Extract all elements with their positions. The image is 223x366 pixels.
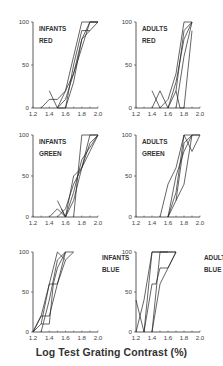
series-line bbox=[152, 252, 176, 332]
y-tick-label: 100 bbox=[122, 248, 133, 255]
panel-adults-blue: 0501001.21.41.61.82.0ADULTSBLUE bbox=[122, 248, 223, 341]
series-line bbox=[168, 135, 200, 217]
x-tick-label: 1.8 bbox=[77, 334, 86, 341]
panel-label-color: GREEN bbox=[39, 150, 62, 157]
series-line bbox=[152, 252, 176, 332]
panel-label-group: INFANTS bbox=[102, 254, 130, 261]
x-axis-label: Log Test Grating Contrast (%) bbox=[0, 346, 223, 358]
y-tick-label: 50 bbox=[125, 288, 132, 295]
panel-adults-green: 0501001.21.41.61.82.0ADULTSGREEN bbox=[122, 131, 205, 226]
panel-label-group: INFANTS bbox=[39, 25, 67, 32]
panel-label-color: BLUE bbox=[204, 266, 222, 273]
x-tick-label: 1.8 bbox=[180, 219, 189, 226]
x-tick-label: 1.4 bbox=[45, 219, 54, 226]
y-tick-label: 50 bbox=[22, 61, 29, 68]
x-tick-label: 1.6 bbox=[164, 219, 173, 226]
x-tick-label: 1.6 bbox=[61, 334, 70, 341]
series-line bbox=[49, 135, 98, 217]
x-tick-label: 2.0 bbox=[196, 110, 205, 117]
panel-infants-green: 0501001.21.41.61.82.0INFANTSGREEN bbox=[19, 131, 103, 226]
series-line bbox=[144, 252, 176, 332]
x-tick-label: 1.2 bbox=[132, 219, 141, 226]
panel-label-group: ADULTS bbox=[204, 254, 223, 261]
panel-infants-blue: 0501001.21.41.61.82.0INFANTSBLUE bbox=[19, 248, 130, 341]
y-tick-label: 50 bbox=[22, 172, 29, 179]
panel-adults-red: 0501001.21.41.61.82.0ADULTSRED bbox=[122, 18, 205, 117]
series-line bbox=[168, 135, 192, 217]
panel-label-color: GREEN bbox=[142, 150, 165, 157]
y-tick-label: 50 bbox=[125, 172, 132, 179]
panel-label-color: BLUE bbox=[102, 266, 120, 273]
x-tick-label: 2.0 bbox=[196, 334, 205, 341]
series-line bbox=[168, 135, 200, 217]
x-tick-label: 2.0 bbox=[94, 219, 103, 226]
y-tick-label: 100 bbox=[19, 248, 30, 255]
y-tick-label: 100 bbox=[19, 18, 30, 25]
x-tick-label: 1.4 bbox=[148, 334, 157, 341]
series-line bbox=[176, 22, 192, 108]
series-line bbox=[74, 135, 98, 217]
x-tick-label: 1.4 bbox=[148, 219, 157, 226]
y-tick-label: 100 bbox=[122, 18, 133, 25]
panel-label-group: ADULTS bbox=[142, 138, 168, 145]
panel-label-group: ADULTS bbox=[142, 25, 168, 32]
x-tick-label: 1.2 bbox=[29, 110, 38, 117]
panel-label-color: RED bbox=[142, 37, 156, 44]
x-tick-label: 1.6 bbox=[61, 110, 70, 117]
series-line bbox=[41, 252, 65, 324]
x-tick-label: 1.2 bbox=[132, 334, 141, 341]
x-tick-label: 1.8 bbox=[77, 110, 86, 117]
x-tick-label: 1.8 bbox=[180, 334, 189, 341]
x-tick-label: 2.0 bbox=[196, 219, 205, 226]
x-tick-label: 1.6 bbox=[61, 219, 70, 226]
x-tick-label: 1.8 bbox=[180, 110, 189, 117]
y-tick-label: 100 bbox=[122, 131, 133, 138]
x-tick-label: 2.0 bbox=[94, 334, 103, 341]
x-tick-label: 1.6 bbox=[164, 334, 173, 341]
y-tick-label: 50 bbox=[22, 288, 29, 295]
x-tick-label: 1.8 bbox=[77, 219, 86, 226]
panel-label-group: INFANTS bbox=[39, 138, 67, 145]
series-line bbox=[33, 252, 66, 332]
x-tick-label: 1.2 bbox=[29, 219, 38, 226]
x-tick-label: 1.6 bbox=[164, 110, 173, 117]
x-tick-label: 1.2 bbox=[29, 334, 38, 341]
y-tick-label: 50 bbox=[125, 61, 132, 68]
panel-label-color: RED bbox=[39, 37, 53, 44]
series-line bbox=[136, 252, 168, 332]
x-tick-label: 1.2 bbox=[132, 110, 141, 117]
panel-infants-red: 0501001.21.41.61.82.0INFANTSRED bbox=[19, 18, 103, 117]
x-tick-label: 1.4 bbox=[148, 110, 157, 117]
y-tick-label: 100 bbox=[19, 131, 30, 138]
series-line bbox=[41, 252, 74, 332]
x-tick-label: 1.4 bbox=[45, 110, 54, 117]
figure: 0501001.21.41.61.82.0INFANTSRED0501001.2… bbox=[0, 0, 223, 366]
x-tick-label: 1.4 bbox=[45, 334, 54, 341]
x-tick-label: 2.0 bbox=[94, 110, 103, 117]
